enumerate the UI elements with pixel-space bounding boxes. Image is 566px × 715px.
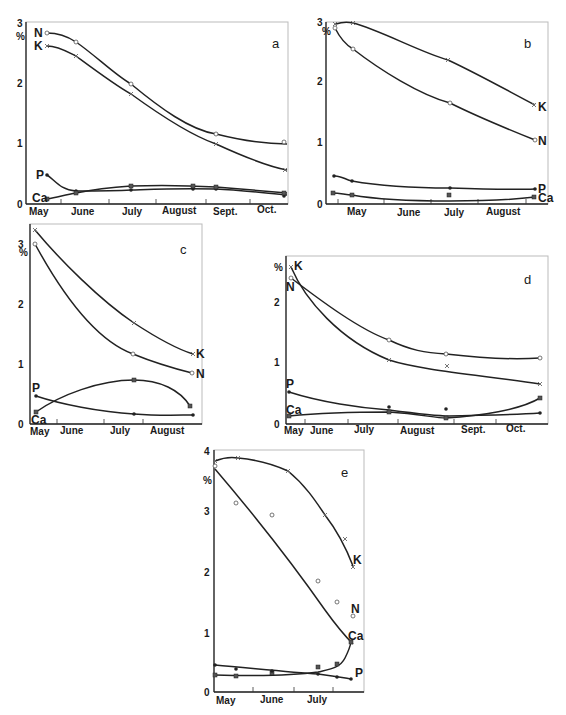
series-label-p: P bbox=[36, 168, 44, 182]
y-axis-unit: % bbox=[203, 475, 212, 486]
panel-label: e bbox=[341, 465, 348, 480]
y-tick: 2 bbox=[18, 299, 24, 310]
x-tick-label: May bbox=[30, 426, 50, 437]
series-label-p: P bbox=[32, 381, 40, 395]
series-ca-line bbox=[36, 380, 190, 412]
series-n-line bbox=[335, 28, 535, 140]
series-label-k: K bbox=[538, 100, 547, 114]
y-tick: 0 bbox=[274, 419, 280, 430]
series-label-k: K bbox=[294, 259, 303, 273]
y-tick: 4 bbox=[204, 446, 210, 457]
x-tick-label: Sept. bbox=[461, 424, 486, 435]
x-tick-label: July bbox=[307, 694, 327, 705]
series-n-line bbox=[47, 33, 287, 144]
chart-panel-d: 0 1 2 % d May June July August Sept. Oct… bbox=[260, 240, 566, 440]
series-k-line bbox=[35, 230, 193, 354]
x-tick-label: August bbox=[162, 205, 197, 216]
x-tick-label: May bbox=[347, 206, 367, 217]
series-label-k: K bbox=[196, 347, 205, 361]
series-n-line bbox=[215, 469, 353, 644]
series-label-p: P bbox=[286, 377, 294, 391]
x-tick-label: June bbox=[60, 425, 84, 436]
y-axis-unit: % bbox=[274, 262, 283, 273]
plot-frame bbox=[286, 256, 548, 424]
x-tick-label: August bbox=[486, 206, 521, 217]
y-tick: 0 bbox=[18, 419, 24, 430]
panel-label: a bbox=[272, 36, 280, 51]
series-label-n: N bbox=[351, 602, 360, 616]
y-tick: 2 bbox=[204, 567, 210, 578]
y-tick: 0 bbox=[17, 199, 23, 210]
y-tick: 0 bbox=[317, 199, 323, 210]
y-tick: 0 bbox=[204, 687, 210, 698]
chart-panel-c: 0 1 2 3 % c May June July August K N P C… bbox=[0, 220, 220, 440]
x-tick-label: July bbox=[354, 424, 374, 435]
series-label-k: K bbox=[34, 39, 43, 53]
y-tick: 1 bbox=[18, 359, 24, 370]
chart-panel-b: 0 1 2 3 % b May June July August K N P C… bbox=[280, 0, 566, 220]
plot-frame bbox=[326, 22, 548, 204]
x-tick-label: June bbox=[71, 206, 95, 217]
y-tick: 2 bbox=[317, 76, 323, 87]
series-k-line bbox=[291, 267, 540, 384]
chart-panel-e: 0 1 2 3 4 % e May June July K N Ca P bbox=[190, 440, 400, 715]
panel-label: d bbox=[524, 272, 531, 287]
y-tick: 3 bbox=[17, 18, 23, 29]
x-tick-label: July bbox=[444, 207, 464, 218]
x-tick-label: May bbox=[29, 206, 49, 217]
y-tick: 2 bbox=[17, 78, 23, 89]
y-tick: 3 bbox=[204, 506, 210, 517]
series-k-line bbox=[215, 457, 353, 566]
y-tick: 1 bbox=[317, 137, 323, 148]
x-tick-label: Sept. bbox=[213, 206, 238, 217]
x-tick-label: May bbox=[216, 695, 236, 706]
series-k-line bbox=[336, 22, 535, 105]
series-p-line bbox=[334, 176, 535, 190]
x-tick-label: August bbox=[400, 425, 435, 436]
x-tick-label: July bbox=[110, 425, 130, 436]
series-p-line bbox=[289, 392, 540, 416]
series-label-n: N bbox=[34, 26, 43, 40]
panel-label: b bbox=[524, 36, 531, 51]
series-label-ca: Ca bbox=[286, 403, 302, 417]
plot-frame bbox=[26, 22, 288, 204]
y-axis-unit: % bbox=[322, 26, 331, 37]
x-tick-label: Oct. bbox=[506, 423, 526, 434]
series-k-line bbox=[47, 46, 287, 170]
series-label-n: N bbox=[196, 367, 205, 381]
series-ca-line bbox=[333, 193, 535, 201]
x-tick-label: June bbox=[310, 425, 334, 436]
chart-panel-a: 0 1 2 3 % a May June July August Sept. O… bbox=[0, 0, 290, 220]
x-tick-label: June bbox=[260, 694, 284, 705]
y-tick: 1 bbox=[17, 138, 23, 149]
x-tick-label: August bbox=[150, 425, 185, 436]
x-tick-label: Oct. bbox=[257, 204, 277, 215]
series-label-p: P bbox=[355, 666, 363, 680]
y-tick: 1 bbox=[274, 357, 280, 368]
panel-label: c bbox=[180, 242, 187, 257]
plot-frame bbox=[214, 450, 364, 692]
series-label-n: N bbox=[286, 280, 295, 294]
x-tick-label: June bbox=[397, 207, 421, 218]
y-tick: 1 bbox=[204, 628, 210, 639]
series-label-n: N bbox=[538, 134, 547, 148]
series-label-ca: Ca bbox=[348, 629, 364, 643]
x-tick-label: May bbox=[284, 425, 304, 436]
x-tick-label: July bbox=[122, 206, 142, 217]
series-label-k: K bbox=[353, 553, 362, 567]
y-axis-unit: % bbox=[19, 247, 28, 258]
series-label-ca: Ca bbox=[31, 413, 47, 427]
series-label-ca: Ca bbox=[538, 191, 554, 205]
series-label-ca: Ca bbox=[32, 191, 48, 205]
y-axis-unit: % bbox=[16, 31, 25, 42]
series-n-line bbox=[291, 278, 540, 359]
y-tick: 2 bbox=[274, 297, 280, 308]
